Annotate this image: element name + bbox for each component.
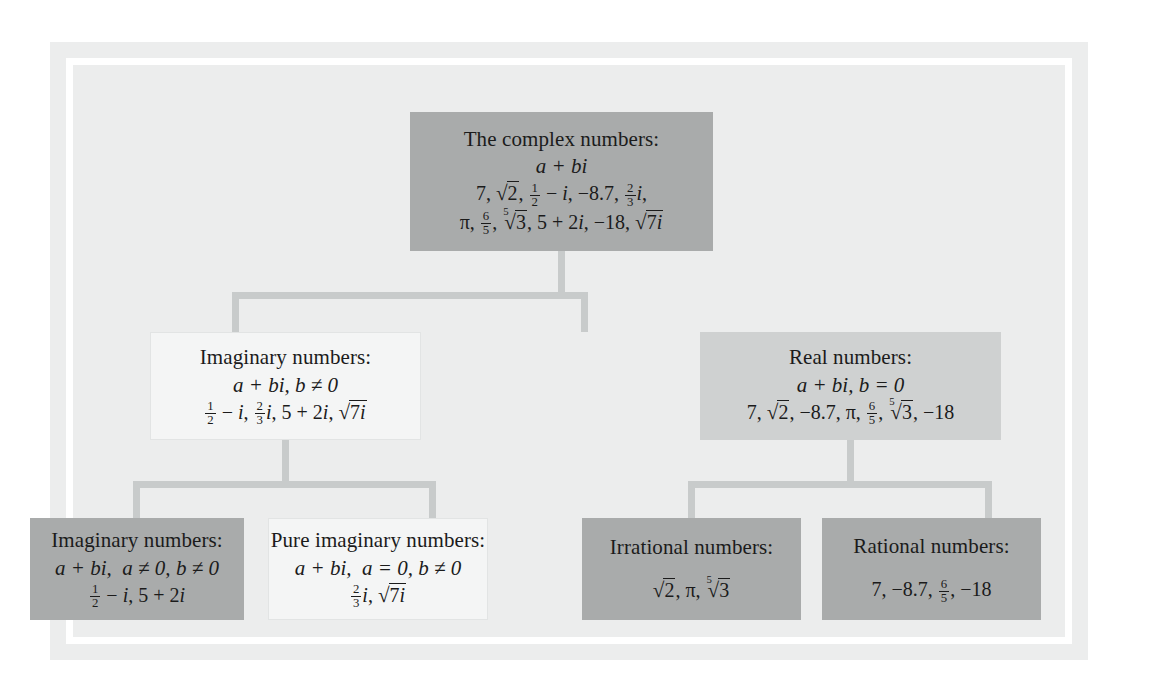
node-real-title: Real numbers: (789, 344, 912, 371)
connector-to-real (581, 292, 588, 332)
node-imaginary-numbers-leaf: Imaginary numbers: a + bi, a ≠ 0, b ≠ 0 … (30, 518, 244, 620)
connector-real-bar (688, 481, 992, 488)
node-real-form: a + bi, b = 0 (797, 372, 905, 399)
node-rational-numbers: Rational numbers: 7, −8.7, 65, −18 (822, 518, 1041, 620)
connector-level1-bar (232, 292, 588, 299)
connector-to-imaginary (232, 292, 239, 332)
node-complex-items-line2: π, 65, 5√3, 5 + 2i, −18, √7i (460, 209, 663, 237)
node-complex-form: a + bi (536, 153, 588, 180)
node-pure-imaginary-items: 23i, √7i (350, 582, 406, 610)
node-imaginary-numbers: Imaginary numbers: a + bi, b ≠ 0 12 − i,… (150, 332, 421, 440)
node-complex-items-line1: 7, √2,12 − i, −8.7, 23i, (476, 180, 647, 208)
node-pure-imaginary-title: Pure imaginary numbers: (271, 527, 486, 554)
node-complex-numbers: The complex numbers: a + bi 7, √2,12 − i… (410, 112, 713, 251)
node-imaginary-leaf-title: Imaginary numbers: (51, 527, 223, 554)
connector-to-rational (985, 481, 992, 518)
node-complex-title: The complex numbers: (464, 126, 660, 153)
node-rational-items: 7, −8.7, 65, −18 (872, 576, 992, 604)
node-imaginary-items: 12 − i, 23i, 5 + 2i, √7i (204, 399, 366, 427)
node-irrational-numbers: Irrational numbers: √2, π, 5√3 (582, 518, 801, 620)
connector-imaginary-down (282, 440, 289, 481)
node-imaginary-leaf-items: 12 − i, 5 + 2i (89, 582, 185, 610)
node-real-numbers: Real numbers: a + bi, b = 0 7, √2, −8.7,… (700, 332, 1001, 440)
node-imaginary-leaf-form: a + bi, a ≠ 0, b ≠ 0 (55, 555, 219, 582)
connector-real-down (847, 440, 854, 481)
node-imaginary-title: Imaginary numbers: (200, 344, 372, 371)
connector-root-to-bar (558, 251, 565, 292)
node-pure-imaginary-form: a + bi, a = 0, b ≠ 0 (295, 555, 461, 582)
node-imaginary-form: a + bi, b ≠ 0 (233, 372, 338, 399)
node-rational-title: Rational numbers: (853, 533, 1009, 560)
connector-to-imaginary-leaf (133, 481, 140, 518)
node-real-items: 7, √2, −8.7, π, 65, 5√3, −18 (747, 399, 954, 427)
connector-to-pure-imaginary (429, 481, 436, 518)
node-pure-imaginary-numbers: Pure imaginary numbers: a + bi, a = 0, b… (268, 518, 488, 620)
classification-tree-diagram: The complex numbers: a + bi 7, √2,12 − i… (0, 0, 1151, 699)
connector-imaginary-bar (133, 481, 436, 488)
connector-to-irrational (688, 481, 695, 518)
node-irrational-items: √2, π, 5√3 (653, 577, 730, 605)
node-irrational-title: Irrational numbers: (610, 534, 773, 561)
